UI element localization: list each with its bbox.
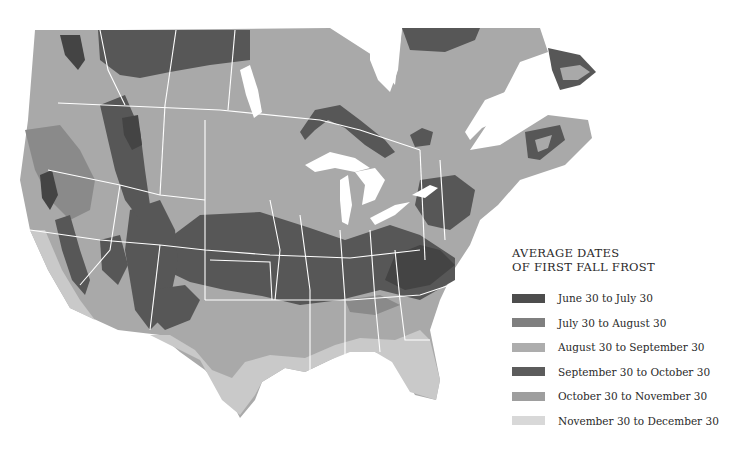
- legend-swatch: [512, 318, 545, 327]
- legend-title: AVERAGE DATES OF FIRST FALL FROST: [512, 246, 732, 274]
- legend-swatch: [512, 367, 545, 376]
- legend-item: July 30 to August 30: [512, 311, 732, 336]
- legend-swatch: [512, 294, 545, 303]
- legend-swatch: [512, 343, 545, 352]
- legend: AVERAGE DATES OF FIRST FALL FROST June 3…: [512, 246, 732, 433]
- legend-label: November 30 to December 30: [558, 415, 719, 427]
- legend-label: August 30 to September 30: [558, 341, 705, 353]
- legend-item: September 30 to October 30: [512, 360, 732, 385]
- legend-swatch: [512, 416, 545, 425]
- legend-swatch: [512, 392, 545, 401]
- legend-item: November 30 to December 30: [512, 409, 732, 434]
- legend-item: October 30 to November 30: [512, 384, 732, 409]
- legend-title-line2: OF FIRST FALL FROST: [512, 260, 732, 274]
- legend-label: September 30 to October 30: [558, 366, 710, 378]
- legend-label: July 30 to August 30: [558, 317, 666, 329]
- legend-item: August 30 to September 30: [512, 335, 732, 360]
- legend-label: October 30 to November 30: [558, 390, 707, 402]
- legend-label: June 30 to July 30: [558, 292, 653, 304]
- legend-title-line1: AVERAGE DATES: [512, 246, 732, 260]
- legend-item: June 30 to July 30: [512, 286, 732, 311]
